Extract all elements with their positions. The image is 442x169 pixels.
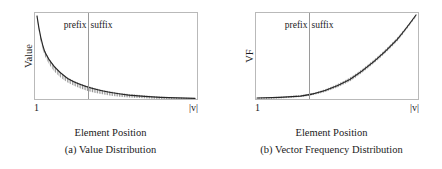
plot-area-a: prefix suffix <box>34 12 198 100</box>
x-axis-label-b: Element Position <box>221 126 442 139</box>
x-axis-label-a: Element Position <box>0 126 221 139</box>
x-tick-end-b: |v| <box>410 101 419 114</box>
segment-label-prefix-a: prefix <box>35 20 88 31</box>
x-tick-start-b: 1 <box>255 101 260 114</box>
x-tick-start-a: 1 <box>34 101 39 114</box>
plot-area-b: prefix suffix <box>255 12 419 100</box>
segment-label-suffix-a: suffix <box>88 20 112 31</box>
panel-value-distribution: Value prefix suffix 1 |v| Element Positi… <box>0 0 221 169</box>
x-tick-end-a: |v| <box>189 101 198 114</box>
panel-caption-a: (a) Value Distribution <box>0 143 221 156</box>
figure-two-panel-distributions: Value prefix suffix 1 |v| Element Positi… <box>0 0 442 169</box>
segment-label-prefix-b: prefix <box>256 20 309 31</box>
segment-label-suffix-b: suffix <box>309 20 333 31</box>
panel-vector-frequency-distribution: VF prefix suffix 1 |v| Element Position … <box>221 0 442 169</box>
panel-caption-b: (b) Vector Frequency Distribution <box>221 143 442 156</box>
